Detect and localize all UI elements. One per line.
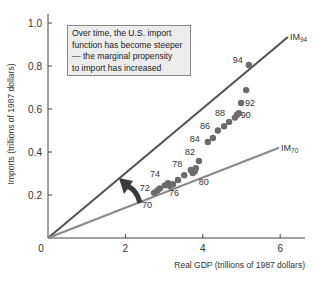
x-tick-label: 2 — [123, 243, 129, 254]
data-point — [175, 177, 181, 183]
data-point-label: 84 — [190, 134, 200, 144]
y-axis-title: Imports (trillions of 1987 dollars) — [6, 63, 16, 184]
data-point — [210, 135, 216, 141]
data-point-label: 92 — [245, 98, 255, 108]
data-point-label: 94 — [233, 55, 243, 65]
y-tick-label: 0.6 — [28, 104, 42, 115]
data-point — [196, 158, 202, 164]
data-point-label: 70 — [142, 200, 152, 210]
data-point-label: 90 — [241, 110, 251, 120]
x-axis-title: Real GDP (trillions of 1987 dollars) — [174, 260, 305, 270]
origin-label: 0 — [38, 243, 44, 254]
data-point — [221, 123, 227, 129]
data-point-label: 88 — [215, 108, 225, 118]
y-tick-label: 0.2 — [28, 190, 42, 201]
data-point — [215, 127, 221, 133]
y-tick-label: 0.4 — [28, 147, 42, 158]
annotation-line: Over time, the U.S. import — [72, 28, 186, 40]
data-point — [170, 181, 176, 187]
data-point-label: 72 — [140, 183, 150, 193]
line-label: IM70 — [281, 143, 299, 154]
x-tick-label: 4 — [200, 243, 206, 254]
data-point — [238, 100, 244, 106]
data-point-label: 74 — [150, 169, 160, 179]
data-point-label: 78 — [172, 159, 182, 169]
annotation-line: function has become steeper — [72, 40, 186, 52]
line-label: IM94 — [290, 32, 308, 43]
data-point — [246, 62, 252, 68]
y-tick-label: 0.8 — [28, 61, 42, 72]
data-point — [205, 139, 211, 145]
data-point-label: 80 — [199, 177, 209, 187]
annotation-box: Over time, the U.S. import function has … — [67, 25, 191, 76]
rotation-arrow-icon — [119, 178, 140, 203]
annotation-line: — the marginal propensity — [72, 51, 186, 63]
data-point — [226, 119, 232, 125]
data-point — [193, 165, 199, 171]
x-tick-label: 6 — [277, 243, 283, 254]
annotation-line: to import has increased — [72, 63, 186, 75]
data-point-label: 82 — [185, 147, 195, 157]
data-point-label: 86 — [200, 121, 210, 131]
data-point-label: 76 — [169, 188, 179, 198]
data-point — [181, 172, 187, 178]
data-point — [243, 87, 249, 93]
line-im70 — [48, 148, 279, 238]
y-tick-label: 1.0 — [28, 18, 42, 29]
x-ticks: 246 — [123, 234, 284, 254]
